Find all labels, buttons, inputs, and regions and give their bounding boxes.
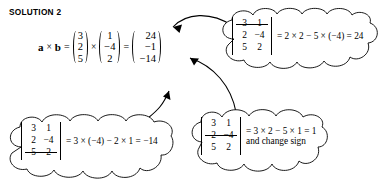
matrix-cell: −4: [252, 30, 267, 42]
matrix-row: 2 −4: [26, 135, 56, 147]
matrix-cell: −4: [221, 130, 236, 142]
matrix-cell: 2: [41, 147, 56, 159]
matrix-cell: 2: [221, 142, 236, 154]
matrix-cell: 5: [206, 142, 221, 154]
callout-note: and change sign: [246, 136, 316, 146]
callout-component-i: 3 1 2 −4 5 2 = 2 × 2 − 5 × (−4) = 24: [216, 6, 381, 72]
matrix-row: 2 −4: [237, 30, 267, 42]
matrix-row: 3 1: [26, 123, 56, 135]
callout-component-j: 3 1 2 −4 5 2 = 3 × 2 − 5 × 1 = 1 and cha…: [186, 106, 331, 178]
determinant-matrix: 3 1 2 −4 5 2: [20, 122, 62, 160]
matrix-cell: 1: [221, 118, 236, 130]
callout-expression: = 2 × 2 − 5 × (−4) = 24: [277, 31, 363, 41]
matrix-row: 3 1: [206, 118, 236, 130]
callout-text-block: = 3 × 2 − 5 × 1 = 1 and change sign: [246, 126, 316, 146]
callout-component-k: 3 1 2 −4 5 2 = 3 × (−4) − 2 × 1 = −14: [4, 112, 176, 179]
matrix-cell: 5: [237, 42, 252, 54]
matrix-row: 5 2: [237, 42, 267, 54]
matrix-row: 5 2: [206, 142, 236, 154]
matrix-cell: 2: [252, 42, 267, 54]
matrix-row-struck: 2 −4: [206, 130, 236, 142]
determinant-matrix: 3 1 2 −4 5 2: [231, 17, 273, 55]
matrix-row-struck: 5 2: [26, 147, 56, 159]
matrix-cell: 1: [252, 18, 267, 30]
determinant-matrix: 3 1 2 −4 5 2: [200, 117, 242, 155]
matrix-cell: 3: [26, 123, 41, 135]
matrix-row-struck: 3 1: [237, 18, 267, 30]
matrix-cell: −4: [41, 135, 56, 147]
figure-canvas: SOLUTION 2 a × b = 3 2 5 × 1 −4 2 = 24 −…: [0, 0, 381, 179]
matrix-cell: 3: [206, 118, 221, 130]
callout-expression: = 3 × 2 − 5 × 1 = 1: [246, 126, 316, 136]
callout-expression: = 3 × (−4) − 2 × 1 = −14: [66, 136, 158, 146]
matrix-cell: 2: [26, 135, 41, 147]
matrix-cell: 2: [237, 30, 252, 42]
matrix-cell: 1: [41, 123, 56, 135]
